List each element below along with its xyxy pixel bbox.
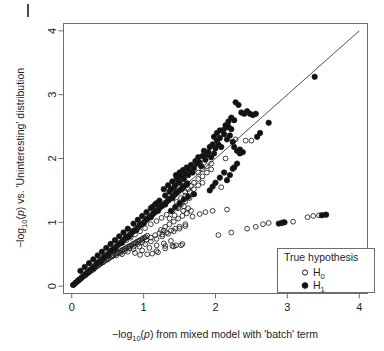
data-point-h1 bbox=[168, 208, 173, 213]
scan-artifact-mark bbox=[27, 4, 29, 17]
data-point-h1 bbox=[108, 241, 113, 246]
data-point-h1 bbox=[282, 220, 287, 225]
svg-text:−log10(p) vs. 'Uninteresting': −log10(p) vs. 'Uninteresting' distributi… bbox=[14, 68, 29, 248]
legend-label-h0-text: H bbox=[313, 266, 321, 278]
data-point-h0 bbox=[291, 219, 296, 224]
data-point-h1 bbox=[140, 213, 145, 218]
x-axis-tick-labels: 01234 bbox=[69, 301, 363, 313]
data-point-h0 bbox=[154, 243, 159, 248]
data-point-h0 bbox=[190, 214, 195, 219]
data-point-h1 bbox=[165, 183, 170, 188]
y-tick-label: 0 bbox=[46, 283, 58, 289]
data-point-h1 bbox=[236, 102, 241, 107]
data-point-h0 bbox=[203, 210, 208, 215]
data-point-h1 bbox=[240, 149, 245, 154]
data-point-h1 bbox=[173, 172, 178, 177]
data-point-h1 bbox=[170, 179, 175, 184]
data-point-h0 bbox=[249, 138, 254, 143]
data-point-h0 bbox=[266, 221, 271, 226]
data-point-h0 bbox=[210, 208, 215, 213]
data-point-h1 bbox=[154, 200, 159, 205]
svg-text:−log10(p) from mixed model wit: −log10(p) from mixed model with 'batch' … bbox=[112, 328, 318, 343]
data-point-h0 bbox=[216, 233, 221, 238]
data-point-h0 bbox=[150, 251, 155, 256]
data-point-h0 bbox=[192, 180, 197, 185]
data-point-h0 bbox=[253, 224, 258, 229]
y-tick-label: 1 bbox=[46, 219, 58, 225]
data-point-h1 bbox=[117, 234, 122, 239]
y-title-log: log bbox=[14, 228, 26, 242]
data-point-h1 bbox=[223, 123, 228, 128]
data-point-h1 bbox=[229, 126, 234, 131]
data-point-h1 bbox=[191, 192, 196, 197]
data-point-h1 bbox=[145, 216, 150, 221]
data-point-h1 bbox=[173, 204, 178, 209]
data-point-h0 bbox=[138, 252, 143, 257]
data-point-h1 bbox=[227, 172, 232, 177]
data-point-h1 bbox=[112, 238, 117, 243]
figure-panel: 01234 01234 −log10(p) from mixed model w… bbox=[0, 0, 384, 351]
data-point-h0 bbox=[223, 156, 228, 161]
data-point-h0 bbox=[179, 243, 184, 248]
y-axis-ticks bbox=[59, 31, 64, 286]
data-point-h1 bbox=[198, 163, 203, 168]
x-title-base: 10 bbox=[132, 334, 140, 343]
data-point-h0 bbox=[200, 174, 205, 179]
data-point-h1 bbox=[82, 264, 87, 269]
data-point-h1 bbox=[230, 139, 235, 144]
data-point-h0 bbox=[154, 219, 159, 224]
y-tick-label: 3 bbox=[46, 92, 58, 98]
data-point-h0 bbox=[180, 242, 185, 247]
data-point-h0 bbox=[156, 250, 161, 255]
data-point-h1 bbox=[227, 133, 232, 138]
data-point-h0 bbox=[148, 222, 153, 227]
x-tick-label: 2 bbox=[212, 301, 218, 313]
data-point-h0 bbox=[243, 138, 248, 143]
data-point-h1 bbox=[131, 221, 136, 226]
y-tick-label: 4 bbox=[46, 28, 58, 34]
data-point-h1 bbox=[123, 235, 128, 240]
scatter-plot-svg: 01234 01234 −log10(p) from mixed model w… bbox=[0, 0, 384, 351]
data-point-h1 bbox=[162, 193, 167, 198]
data-point-h0 bbox=[147, 245, 152, 250]
data-point-h1 bbox=[224, 178, 229, 183]
data-point-h0 bbox=[164, 212, 169, 217]
x-title-rest: from mixed model with 'batch' term bbox=[153, 328, 318, 340]
data-point-h1 bbox=[91, 257, 96, 262]
data-point-h1 bbox=[91, 266, 96, 271]
data-point-h1 bbox=[254, 134, 259, 139]
data-point-h1 bbox=[130, 229, 135, 234]
legend-label-h0-sub: 0 bbox=[321, 272, 325, 281]
data-point-h1 bbox=[185, 166, 190, 171]
data-point-h0 bbox=[181, 208, 186, 213]
data-point-h1 bbox=[231, 118, 236, 123]
x-title-log: log bbox=[118, 328, 132, 340]
data-point-h1 bbox=[159, 203, 164, 208]
data-point-h0 bbox=[305, 215, 310, 220]
data-point-h0 bbox=[261, 222, 266, 227]
data-point-h0 bbox=[219, 185, 224, 190]
data-point-h0 bbox=[192, 187, 197, 192]
x-tick-label: 1 bbox=[141, 301, 147, 313]
data-point-h1 bbox=[203, 157, 208, 162]
data-point-h1 bbox=[312, 74, 317, 79]
data-point-h0 bbox=[171, 219, 176, 224]
legend-marker-filled-circle bbox=[302, 283, 308, 289]
data-point-h0 bbox=[140, 248, 145, 253]
x-axis-ticks bbox=[72, 294, 359, 299]
data-point-h1 bbox=[211, 151, 216, 156]
data-point-h0 bbox=[229, 230, 234, 235]
data-point-h0 bbox=[197, 212, 202, 217]
data-point-h0 bbox=[200, 180, 205, 185]
data-point-h0 bbox=[145, 252, 150, 257]
data-point-h1 bbox=[104, 245, 109, 250]
data-point-h1 bbox=[177, 200, 182, 205]
data-point-h1 bbox=[219, 144, 224, 149]
y-title-rest: vs. 'Uninteresting' distribution bbox=[14, 68, 26, 207]
data-point-h1 bbox=[144, 209, 149, 214]
data-point-h0 bbox=[245, 226, 250, 231]
data-point-h1 bbox=[207, 188, 212, 193]
data-point-h1 bbox=[137, 222, 142, 227]
x-tick-label: 3 bbox=[284, 301, 290, 313]
data-point-h1 bbox=[101, 254, 106, 259]
